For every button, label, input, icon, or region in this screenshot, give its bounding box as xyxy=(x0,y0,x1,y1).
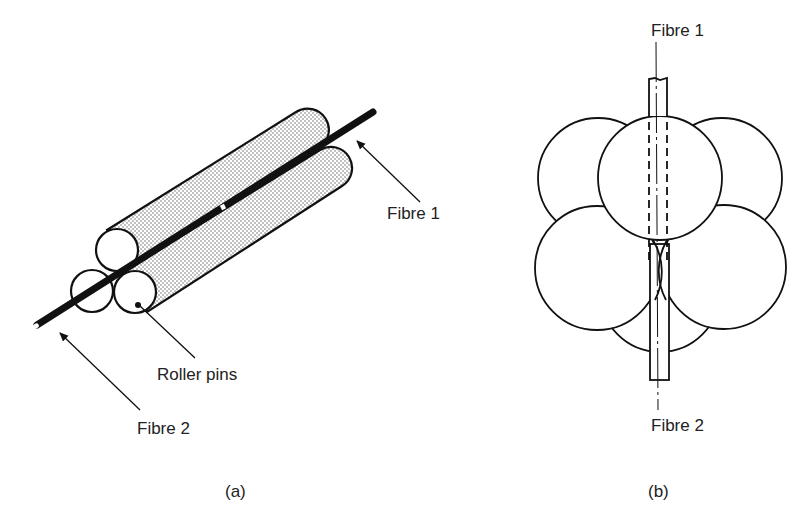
roller-pin-center-dot xyxy=(135,302,141,308)
roller-pins-label: Roller pins xyxy=(157,365,237,384)
roller-pin-end-bottom-right xyxy=(114,271,156,313)
roller-pins-leader xyxy=(140,306,195,358)
fibre1-label-b: Fibre 1 xyxy=(651,21,704,40)
pin-top-center xyxy=(598,116,722,240)
panel-a-caption: (a) xyxy=(225,482,246,501)
fibre2-label-b: Fibre 2 xyxy=(651,416,704,435)
fibre1-label-a: Fibre 1 xyxy=(387,204,440,223)
panel-b xyxy=(535,42,786,410)
fibre-junction-gap xyxy=(221,206,225,208)
panel-b-caption: (b) xyxy=(648,482,669,501)
panel-a: Fibre 1 Roller pins Fibre 2 (a) xyxy=(32,109,440,501)
fibre1-rod-b xyxy=(649,78,667,116)
fibre-rod xyxy=(37,112,373,325)
fibre-alignment-diagram: Fibre 1 Roller pins Fibre 2 (a) Fibre 1 xyxy=(0,0,810,513)
fibre1-leader-a xyxy=(357,141,420,202)
fibre2-label-a: Fibre 2 xyxy=(137,419,190,438)
fibre2-leader-a xyxy=(60,333,140,410)
